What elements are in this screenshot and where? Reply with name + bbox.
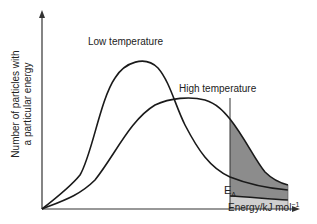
x-axis-label: Energy/kJ mol−1 <box>228 201 299 213</box>
chart-canvas <box>0 0 317 224</box>
y-axis-label-line2: a particular energy <box>22 34 34 174</box>
y-axis-label: Number of particles with a particular en… <box>10 34 34 174</box>
high-temperature-label: High temperature <box>179 83 256 94</box>
x-axis-label-main: Energy/kJ mol <box>228 202 291 213</box>
y-axis-arrow-icon <box>39 10 45 18</box>
activation-energy-label: EA <box>224 184 236 198</box>
y-axis-label-line1: Number of particles with <box>10 34 22 174</box>
x-axis-label-superscript: −1 <box>291 201 299 208</box>
ea-subscript: A <box>231 191 236 198</box>
low-temperature-label: Low temperature <box>88 36 163 47</box>
